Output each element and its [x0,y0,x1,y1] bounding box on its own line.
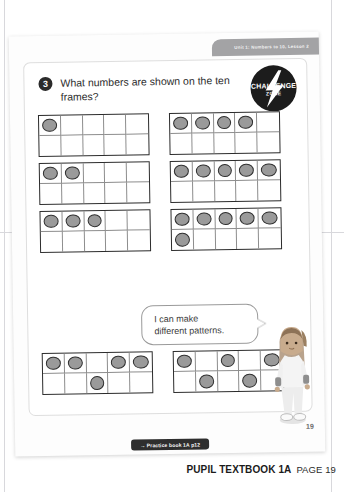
ten-frame [38,113,150,157]
ten-frame [170,159,282,203]
ten-frame-cell [106,231,128,251]
ten-frame-cell [65,353,87,373]
counter [133,355,149,369]
ten-frame-cell [174,372,196,392]
girl-character [268,321,316,426]
ten-frame-cell [237,209,259,229]
ten-frame-cell [196,371,218,391]
counter [90,376,105,391]
ten-frame-cell [215,229,237,249]
speech-bubble-tail [256,318,265,328]
speech-bubble-line1: I can make [154,313,198,324]
counter [46,356,61,370]
ten-frame-cell [218,371,240,391]
ten-frame-cell [84,231,106,251]
counter [65,214,80,228]
ten-frame-cell [106,211,128,231]
ten-frame-cell [105,163,127,183]
ten-frame-cell [236,181,258,201]
ten-frame-cell [192,133,214,153]
ten-frame-cell [62,211,84,231]
ten-frame-cell [105,135,127,155]
counter [196,212,211,226]
ten-frame-cell [257,112,279,132]
ten-frame-cell [84,211,106,231]
ten-frame-cell [84,183,106,203]
counter [111,355,126,369]
ten-frame-cell [194,229,216,249]
ten-frame-cell [237,229,259,249]
ten-frame-cell [235,113,257,133]
counter [242,373,257,388]
activity-card: 3 What numbers are shown on the ten fram… [23,58,313,416]
counter [174,212,189,226]
ten-frame-cell [171,162,193,182]
counter [199,374,214,389]
ten-frame-cell [126,114,148,134]
ten-frame-cell [259,228,281,248]
question-number-badge: 3 [38,77,52,91]
counter [217,164,232,178]
ten-frame-cell [128,210,150,230]
ten-frame-cell [62,163,84,183]
ten-frame-cell [195,351,217,371]
speech-bubble-text: I can make different patterns. [154,312,224,338]
ten-frame-cell [130,372,152,392]
footer-page-label: PAGE 19 [296,464,336,475]
counter [218,212,233,226]
counter [262,211,278,225]
counter [174,164,189,178]
ten-frame-cell [128,230,150,250]
ten-frame-cell [105,183,127,203]
ten-frame-cell [65,373,87,393]
ten-frame-cell [236,161,258,181]
ten-frame-cell [61,135,83,155]
ten-frame-cell [83,163,105,183]
ten-frame-cell [39,136,61,156]
ten-frame-cell [40,164,62,184]
counter [64,166,79,180]
ten-frame-cell [83,135,105,155]
ten-frame-cell [170,114,192,134]
ten-frame-cell [41,232,63,252]
ten-frame-cell [214,113,236,133]
ten-frame-cell [193,181,215,201]
counter [42,118,57,132]
question-header: 3 What numbers are shown on the ten fram… [38,73,245,104]
ten-frame-cell [214,133,236,153]
ten-frame-cell [214,161,236,181]
ten-frame-cell [43,374,65,394]
ten-frames-container [24,59,306,63]
ten-frame-cell [239,351,261,371]
counter [195,164,210,178]
ten-frame-cell [126,134,148,154]
counter [220,354,235,368]
ten-frame-cell [104,115,126,135]
unit-lesson-label: Unit 1: Numbers to 10, Lesson 2 [234,44,309,50]
ten-frame-cell [258,180,280,200]
ten-frame-cell [63,231,85,251]
ten-frame-cell [193,209,215,229]
counter [239,163,254,177]
ten-frame-cell [172,230,194,250]
ten-frame-cell [171,210,193,230]
ten-frame-cell [87,373,109,393]
challenge-badge-line1: CHALLENGE [250,82,296,90]
counter [238,115,253,129]
ten-frame-cell [257,132,279,152]
counter [175,232,190,247]
ten-frame-cell [86,353,108,373]
challenge-zone-badge: CHALLENGE ZONE [250,65,297,112]
ten-frame [39,209,151,253]
guide-line-vertical-left [4,0,5,492]
counter [261,163,277,177]
ten-frame-cell [193,161,215,181]
ten-frame [170,207,282,251]
ten-frame-cell [192,113,214,133]
counter [216,116,231,130]
counter [67,356,82,370]
practice-book-link-tab[interactable]: → Practice book 1A p12 [131,438,209,450]
challenge-badge-line2: ZONE [251,90,297,97]
ten-frame-cell [174,352,196,372]
counter [43,166,58,180]
